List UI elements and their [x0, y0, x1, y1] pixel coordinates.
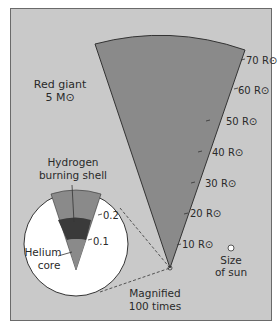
red-giant-diagram: 10 R⊙ 20 R⊙ 30 R⊙ 40 R⊙ 50 R⊙ 60 R⊙ 70 R… [0, 0, 279, 328]
shell-label-line2: burning shell [39, 169, 107, 181]
magnified-line2: 100 times [129, 300, 182, 312]
inset-tick-0.1: 0.1 [93, 236, 109, 247]
core-label-line2: core [38, 259, 61, 271]
scale-label-40: 40 R⊙ [212, 147, 243, 158]
scale-label-50: 50 R⊙ [226, 116, 257, 127]
scale-label-30: 30 R⊙ [205, 178, 236, 189]
shell-label-line1: Hydrogen [47, 156, 98, 168]
sun-size-icon [228, 245, 234, 251]
title-line1: Red giant [34, 78, 87, 91]
scale-label-20: 20 R⊙ [190, 208, 221, 219]
scale-label-70: 70 R⊙ [246, 55, 277, 66]
sun-label-line2: of sun [215, 266, 247, 278]
sun-label-line1: Size [220, 254, 242, 266]
title-line2: 5 M⊙ [45, 91, 74, 104]
scale-label-60: 60 R⊙ [238, 85, 269, 96]
core-label-line1: Helium [24, 246, 61, 258]
scale-label-10: 10 R⊙ [182, 239, 213, 250]
magnified-line1: Magnified [129, 287, 180, 299]
inset-tick-0.2: 0.2 [103, 210, 119, 221]
